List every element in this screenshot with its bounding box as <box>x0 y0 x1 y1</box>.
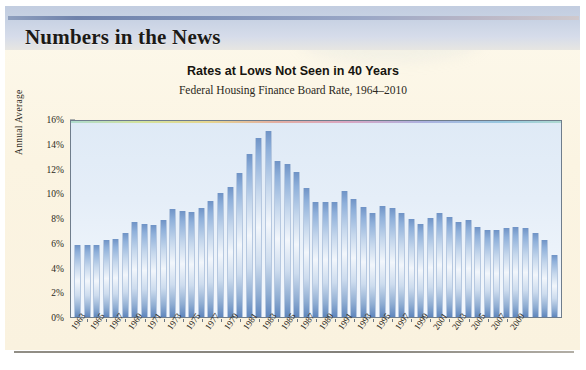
x-axis: 1963196519671969197119731975197719791981… <box>70 319 562 365</box>
x-axis-tick-mark <box>316 319 317 322</box>
bar <box>474 227 481 317</box>
chart-title: Rates at Lows Not Seen in 40 Years <box>0 64 586 78</box>
bar <box>512 227 519 317</box>
bar <box>217 193 224 317</box>
bar <box>532 233 539 317</box>
x-axis-tick-mark <box>278 319 279 322</box>
bar <box>369 213 376 317</box>
bar <box>179 211 186 317</box>
y-axis-tick-label: 4% <box>51 264 64 274</box>
bar <box>131 222 138 317</box>
bar <box>103 240 110 317</box>
x-axis-tick-mark <box>488 319 489 322</box>
bar <box>236 173 243 317</box>
bar <box>341 191 348 317</box>
bar <box>93 245 100 317</box>
bar <box>84 245 91 317</box>
bar <box>284 164 291 317</box>
bar <box>207 201 214 317</box>
bar-series <box>71 121 561 317</box>
x-axis-tick-mark <box>221 319 222 322</box>
bar <box>493 230 500 317</box>
x-axis-tick-mark <box>164 319 165 322</box>
bar <box>255 138 262 317</box>
bar <box>112 239 119 317</box>
bar <box>265 131 272 317</box>
bar <box>484 230 491 317</box>
bar <box>522 228 529 317</box>
x-axis-tick-mark <box>202 319 203 322</box>
bar <box>541 240 548 317</box>
y-axis-label: Annual Average <box>14 90 24 156</box>
y-axis-tick-label: 10% <box>47 189 64 199</box>
x-axis-tick-mark <box>125 319 126 322</box>
bar <box>551 255 558 317</box>
x-axis-tick-mark <box>392 319 393 322</box>
bar <box>246 154 253 317</box>
bar <box>141 224 148 317</box>
bar <box>188 212 195 317</box>
x-axis-tick-mark <box>507 319 508 322</box>
x-axis-tick-mark <box>240 319 241 322</box>
bar <box>389 208 396 317</box>
x-axis-tick-mark <box>469 319 470 322</box>
y-axis-tick-label: 16% <box>47 115 64 125</box>
bar <box>398 213 405 317</box>
x-axis-tick-mark <box>411 319 412 322</box>
bar <box>274 161 281 317</box>
y-axis-tick-label: 8% <box>51 214 64 224</box>
x-axis-tick-mark <box>449 319 450 322</box>
bar <box>169 209 176 317</box>
bar <box>350 199 357 317</box>
bar <box>417 224 424 317</box>
bar <box>312 202 319 317</box>
y-axis-tick-label: 6% <box>51 239 64 249</box>
bar <box>150 225 157 317</box>
page-root: Numbers in the News Rates at Lows Not Se… <box>0 0 586 370</box>
chart-subtitle: Federal Housing Finance Board Rate, 1964… <box>0 84 586 96</box>
bar <box>436 213 443 317</box>
bar <box>465 220 472 317</box>
y-axis-tick-label: 14% <box>47 140 64 150</box>
bar <box>427 218 434 317</box>
bar <box>379 206 386 317</box>
x-axis-tick-mark <box>183 319 184 322</box>
x-axis-tick-mark <box>373 319 374 322</box>
x-axis-tick-mark <box>335 319 336 322</box>
bar <box>446 217 453 317</box>
y-axis-tick-label: 2% <box>51 288 64 298</box>
x-axis-tick-mark <box>430 319 431 322</box>
x-axis-tick-mark <box>297 319 298 322</box>
bar <box>293 172 300 317</box>
bottom-rule <box>14 351 574 353</box>
masthead-rule <box>8 16 579 20</box>
bar <box>74 245 81 317</box>
x-axis-tick-mark <box>259 319 260 322</box>
bar <box>160 220 167 317</box>
x-axis-tick-mark <box>354 319 355 322</box>
bar <box>198 208 205 317</box>
bar <box>122 233 129 317</box>
y-axis: 0%2%4%6%8%10%12%14%16% <box>40 120 70 318</box>
bar <box>360 207 367 317</box>
x-axis-tick-mark <box>87 319 88 322</box>
x-axis-tick-mark <box>106 319 107 322</box>
y-axis-tick-label: 0% <box>51 313 64 323</box>
bar <box>303 188 310 317</box>
y-axis-tick-label: 12% <box>47 165 64 175</box>
masthead-banner: Numbers in the News <box>5 6 580 50</box>
bar <box>322 202 329 317</box>
bar <box>408 219 415 317</box>
page-title: Numbers in the News <box>25 25 221 50</box>
bar <box>455 222 462 317</box>
bar <box>503 228 510 317</box>
bar <box>331 202 338 317</box>
x-axis-tick-mark <box>145 319 146 322</box>
bar <box>227 187 234 317</box>
plot-area <box>70 120 562 318</box>
